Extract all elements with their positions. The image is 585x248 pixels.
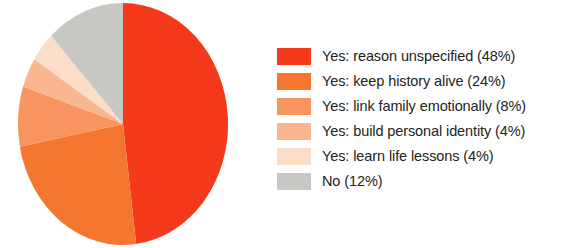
legend-swatch-icon xyxy=(277,123,311,140)
legend-item-no: No (12%) xyxy=(277,169,577,194)
legend-swatch-icon xyxy=(277,73,311,90)
legend-item-reason-unspecified: Yes: reason unspecified (48%) xyxy=(277,44,577,69)
legend-swatch-icon xyxy=(277,148,311,165)
legend-item-label: Yes: keep history alive (24%) xyxy=(322,73,506,90)
pie-chart-svg xyxy=(16,0,230,248)
legend-item-label: Yes: learn life lessons (4%) xyxy=(322,148,494,165)
legend-swatch-icon xyxy=(277,48,311,65)
legend-item-label: Yes: link family emotionally (8%) xyxy=(322,98,526,115)
legend-item-keep-history-alive: Yes: keep history alive (24%) xyxy=(277,69,577,94)
legend-item-build-personal-identity: Yes: build personal identity (4%) xyxy=(277,119,577,144)
pie-chart-figure: Yes: reason unspecified (48%) Yes: keep … xyxy=(0,0,585,248)
pie-slice-group xyxy=(18,3,228,245)
legend-item-link-family-emotionally: Yes: link family emotionally (8%) xyxy=(277,94,577,119)
legend-item-label: Yes: reason unspecified (48%) xyxy=(322,48,515,65)
legend-swatch-icon xyxy=(277,173,311,190)
legend-item-label: Yes: build personal identity (4%) xyxy=(322,123,525,140)
chart-legend: Yes: reason unspecified (48%) Yes: keep … xyxy=(277,44,577,194)
legend-swatch-icon xyxy=(277,98,311,115)
legend-item-label: No (12%) xyxy=(322,173,382,190)
pie-slice xyxy=(123,3,228,244)
pie-chart xyxy=(16,0,230,248)
legend-item-learn-life-lessons: Yes: learn life lessons (4%) xyxy=(277,144,577,169)
